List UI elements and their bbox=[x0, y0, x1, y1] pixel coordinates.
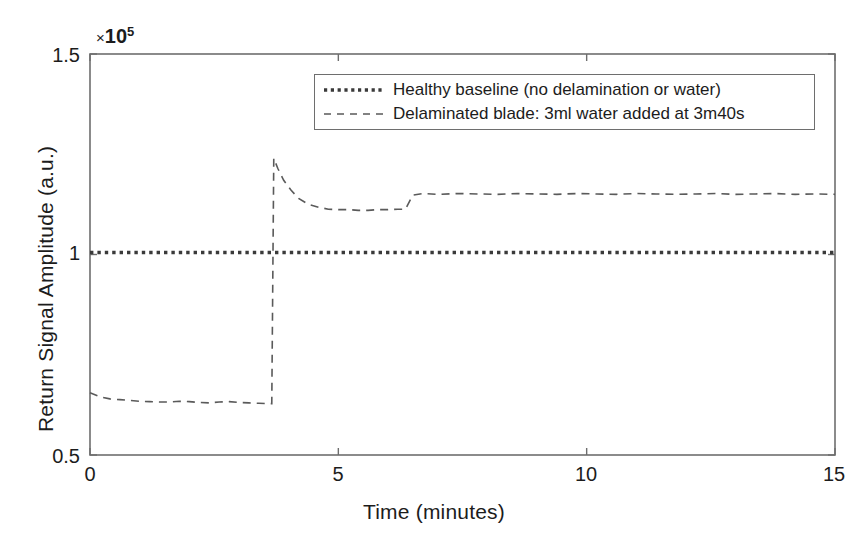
legend-label: Delaminated blade: 3ml water added at 3m… bbox=[393, 104, 745, 124]
legend-entry: Delaminated blade: 3ml water added at 3m… bbox=[323, 102, 745, 126]
legend-swatch-dotted bbox=[323, 83, 385, 97]
legend-label: Healthy baseline (no delamination or wat… bbox=[393, 80, 721, 100]
series-delaminated-blade bbox=[90, 158, 835, 403]
legend-entry: Healthy baseline (no delamination or wat… bbox=[323, 78, 721, 102]
chart-figure: ×105 Return Signal Amplitude (a.u.) Time… bbox=[0, 0, 868, 547]
legend-swatch-dashed bbox=[323, 107, 385, 121]
legend: Healthy baseline (no delamination or wat… bbox=[314, 74, 815, 130]
